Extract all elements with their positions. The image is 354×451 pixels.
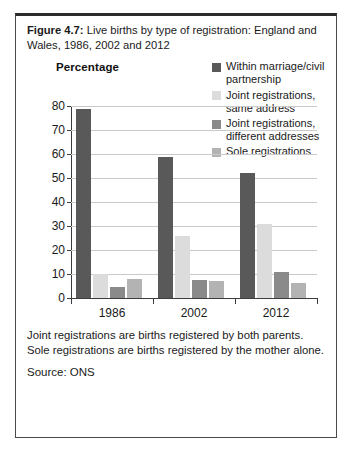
- figure-caption: Figure 4.7: Live births by type of regis…: [16, 16, 336, 54]
- y-tick-label: 20: [52, 243, 65, 257]
- legend-label: Within marriage/civil partnership: [226, 60, 336, 86]
- y-tick-label: 30: [52, 219, 65, 233]
- gridline: [71, 154, 317, 155]
- gridline: [71, 250, 317, 251]
- bar: [274, 272, 289, 298]
- y-tick-mark: [67, 154, 71, 155]
- y-tick-label: 50: [52, 171, 65, 185]
- y-tick-label: 10: [52, 267, 65, 281]
- legend-swatch-icon: [212, 63, 221, 72]
- x-tick-label: 1986: [99, 306, 126, 320]
- bar: [209, 281, 224, 298]
- bar: [175, 236, 190, 298]
- figure-footnote: Joint registrations are births registere…: [16, 326, 336, 357]
- gridline: [71, 226, 317, 227]
- y-tick-mark: [67, 226, 71, 227]
- bar: [93, 274, 108, 298]
- y-tick-label: 80: [52, 99, 65, 113]
- x-tick-label: 2012: [263, 306, 290, 320]
- y-axis-title: Percentage: [56, 61, 119, 73]
- y-tick-label: 70: [52, 123, 65, 137]
- gridline: [71, 202, 317, 203]
- bar: [76, 109, 91, 299]
- y-tick-mark: [67, 274, 71, 275]
- y-tick-label: 40: [52, 195, 65, 209]
- x-tick-mark: [71, 298, 72, 304]
- x-axis-line: [71, 298, 318, 299]
- figure-source: Source: ONS: [16, 357, 336, 378]
- gridline: [71, 178, 317, 179]
- legend-swatch-icon: [212, 91, 221, 100]
- figure-number: Figure 4.7:: [27, 24, 84, 36]
- x-tick-mark: [235, 298, 236, 304]
- x-tick-mark: [317, 298, 318, 304]
- gridline: [71, 106, 317, 107]
- bar: [240, 173, 255, 298]
- y-tick-label: 0: [58, 291, 65, 305]
- gridline: [71, 130, 317, 131]
- x-tick-mark: [153, 298, 154, 304]
- bar: [192, 280, 207, 298]
- bar: [158, 157, 173, 299]
- figure-panel: Figure 4.7: Live births by type of regis…: [15, 13, 337, 438]
- y-tick-label: 60: [52, 147, 65, 161]
- x-tick-label: 2002: [181, 306, 208, 320]
- y-tick-mark: [67, 178, 71, 179]
- bar: [110, 287, 125, 298]
- y-tick-mark: [67, 202, 71, 203]
- legend-item[interactable]: Within marriage/civil partnership: [212, 60, 336, 86]
- bar: [127, 279, 142, 298]
- bar: [257, 224, 272, 298]
- plot-area: 01020304050607080: [71, 106, 317, 298]
- y-tick-mark: [67, 250, 71, 251]
- y-tick-mark: [67, 106, 71, 107]
- bar-chart: Percentage Within marriage/civil partner…: [16, 54, 338, 326]
- y-tick-mark: [67, 130, 71, 131]
- bar: [291, 283, 306, 299]
